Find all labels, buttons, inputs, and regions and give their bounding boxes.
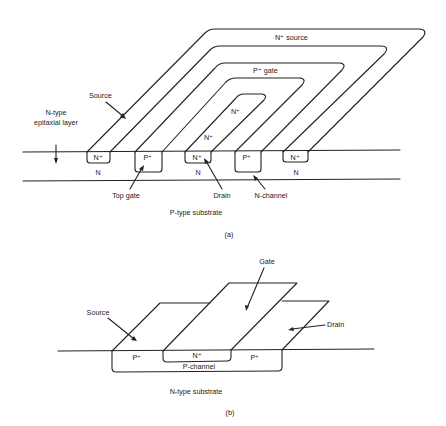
figure-b-caption: (b) — [226, 408, 235, 417]
n-source-strip-outer — [87, 29, 425, 152]
well-label: P⁺ — [144, 153, 153, 162]
n-substrate-label: N-type substrate — [170, 387, 223, 396]
p-channel-label: P-channel — [183, 362, 216, 371]
epitaxial-label-line1: N-type — [45, 108, 66, 117]
substrate-surface-line — [58, 349, 374, 351]
p-substrate-label: P-type substrate — [170, 208, 222, 217]
n-source-label: N⁺ source — [275, 33, 308, 42]
n-region-label: N — [195, 168, 200, 177]
drain-leader-line — [206, 161, 222, 189]
arrowhead-icon — [54, 158, 58, 164]
top-gate-label: Top gate — [112, 191, 140, 200]
epitaxial-label-line2: epitaxial layer — [34, 118, 79, 127]
p-gate-label: P⁺ gate — [253, 66, 278, 75]
n-source-strip-inner — [110, 46, 387, 152]
figure-a: N⁺ P⁺ N⁺ P⁺ N⁺ N N N N⁺ source P⁺ gate N… — [23, 29, 425, 239]
figure-b: P⁺ N⁺ P⁺ P-channel Gate Source Drain N-t… — [58, 257, 374, 417]
n-plus-inner-label: N⁺ — [231, 107, 240, 116]
substrate-boundary-line — [23, 179, 400, 181]
arrowhead-icon — [245, 305, 249, 311]
source-label-b: Source — [87, 308, 110, 317]
well-label: N⁺ — [290, 153, 299, 162]
gate-label: Gate — [259, 257, 275, 266]
jfet-structures-figure: N⁺ P⁺ N⁺ P⁺ N⁺ N N N N⁺ source P⁺ gate N… — [0, 0, 446, 426]
p-plus-right-label: P⁺ — [251, 353, 260, 362]
source-label: Source — [89, 91, 112, 100]
well-label: N⁺ — [192, 153, 201, 162]
drain-leader-line-b — [292, 325, 325, 329]
source-leader-line — [106, 102, 124, 117]
n-drain-finger — [185, 94, 266, 152]
n-plus-center-label: N⁺ — [192, 351, 201, 360]
gate-plate — [163, 283, 297, 351]
p-plus-left-label: P⁺ — [133, 353, 142, 362]
gate-leader-line — [247, 268, 264, 308]
figure-a-caption: (a) — [225, 230, 234, 239]
source-leader-line-b — [108, 318, 134, 339]
drain-label-b: Drain — [327, 320, 344, 329]
drain-label: Drain — [213, 191, 230, 200]
n-region-label: N — [95, 168, 100, 177]
n-plus-mid-label: N⁺ — [204, 133, 213, 142]
well-label: N⁺ — [93, 153, 102, 162]
well-label: P⁺ — [243, 153, 252, 162]
n-region-label: N — [293, 168, 298, 177]
arrowhead-icon — [139, 165, 144, 171]
n-channel-label: N-channel — [255, 191, 288, 200]
arrowhead-icon — [288, 327, 294, 331]
source-plate — [112, 303, 210, 351]
